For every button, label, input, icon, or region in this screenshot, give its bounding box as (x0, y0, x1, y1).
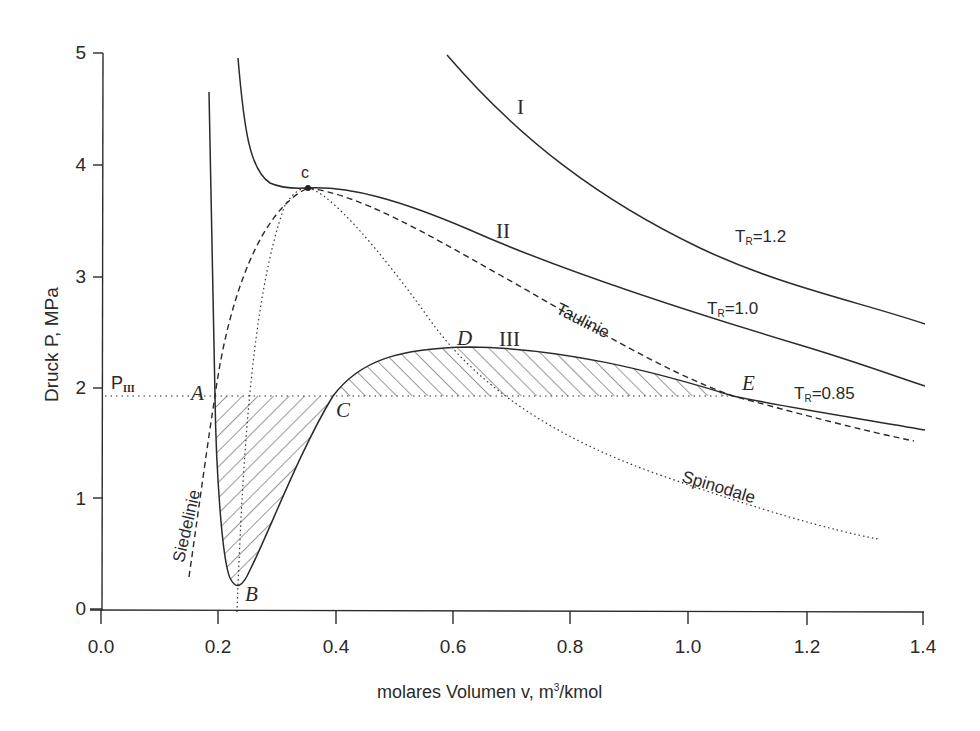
label-isotherm-III: III (499, 329, 520, 350)
p3-sub: III (123, 383, 135, 394)
label-tr-0-85: TR=0.85 (794, 385, 855, 404)
y-tick-1: 1 (56, 489, 86, 508)
x-axis-title-main: molares Volumen v, m (377, 682, 554, 702)
x-tick-0-2: 0.2 (193, 637, 243, 656)
x-axis-title-tail: /kmol (559, 682, 602, 702)
label-point-C: C (336, 400, 350, 421)
label-point-B: B (245, 584, 258, 605)
tr10-val: =1.0 (725, 299, 759, 318)
x-axis-title: molares Volumen v, m3/kmol (377, 683, 602, 701)
isotherm-II (238, 58, 925, 386)
label-p3: PIII (111, 374, 135, 394)
y-tick-3: 3 (56, 267, 86, 286)
tr085-sub: R (804, 393, 811, 404)
spinodale-curve (237, 188, 878, 612)
y-axis (90, 53, 103, 611)
label-isotherm-II: II (496, 221, 510, 242)
x-axis (90, 610, 924, 625)
x-tick-0-8: 0.8 (545, 637, 595, 656)
tr085-main: T (794, 384, 804, 403)
critical-point-marker (305, 185, 311, 191)
y-tick-5: 5 (56, 43, 86, 62)
p3-main: P (111, 373, 123, 393)
tr12-val: =1.2 (753, 227, 787, 246)
label-tr-1-2: TR=1.2 (735, 228, 786, 247)
tr10-sub: R (717, 308, 724, 319)
x-tick-1-4: 1.4 (898, 637, 948, 656)
tr085-val: =0.85 (812, 384, 855, 403)
label-isotherm-I: I (517, 97, 524, 118)
label-point-E: E (742, 373, 755, 394)
tr10-main: T (707, 299, 717, 318)
x-tick-0-4: 0.4 (311, 637, 361, 656)
tr12-sub: R (745, 236, 752, 247)
y-axis-title: Druck P, MPa (42, 287, 61, 402)
y-tick-0: 0 (56, 599, 86, 618)
pv-diagram (0, 0, 980, 731)
label-point-A: A (191, 383, 204, 404)
y-tick-4: 4 (56, 155, 86, 174)
label-point-D: D (457, 328, 472, 349)
label-critical-point: c (301, 165, 309, 181)
label-tr-1-0: TR=1.0 (707, 300, 758, 319)
x-tick-1-0: 1.0 (663, 637, 713, 656)
x-tick-0-0: 0.0 (76, 637, 126, 656)
tr12-main: T (735, 227, 745, 246)
x-tick-1-2: 1.2 (782, 637, 832, 656)
isotherm-III (209, 92, 925, 586)
hatch-area-cde (330, 340, 740, 400)
x-tick-0-6: 0.6 (428, 637, 478, 656)
